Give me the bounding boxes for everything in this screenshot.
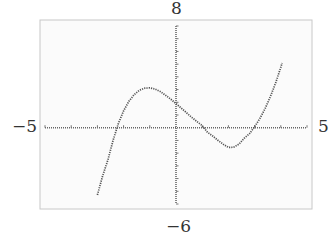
x-min-label: −5 (12, 118, 37, 135)
x-max-label: 5 (318, 118, 329, 135)
y-max-label: 8 (171, 0, 182, 17)
y-min-label: −6 (166, 218, 191, 235)
